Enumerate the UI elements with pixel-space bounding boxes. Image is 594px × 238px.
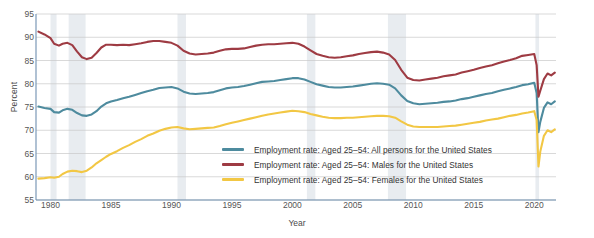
legend-item-label: Employment rate: Aged 25–54: Females for… [254, 175, 483, 185]
chart-container: Percent 556065707580859095 1980198519901… [0, 0, 594, 238]
legend-color-swatch [222, 148, 244, 151]
legend-item-label: Employment rate: Aged 25–54: Males for t… [254, 160, 473, 170]
plot-area [0, 0, 594, 238]
series-line-0 [38, 78, 554, 132]
legend-item[interactable]: Employment rate: Aged 25–54: Females for… [222, 172, 492, 187]
legend-color-swatch [222, 178, 244, 181]
legend-item[interactable]: Employment rate: Aged 25–54: Males for t… [222, 157, 492, 172]
legend-color-swatch [222, 163, 244, 166]
series-line-1 [38, 32, 554, 97]
chart-legend: Employment rate: Aged 25–54: All persons… [222, 142, 492, 187]
legend-item-label: Employment rate: Aged 25–54: All persons… [254, 145, 492, 155]
legend-item[interactable]: Employment rate: Aged 25–54: All persons… [222, 142, 492, 157]
